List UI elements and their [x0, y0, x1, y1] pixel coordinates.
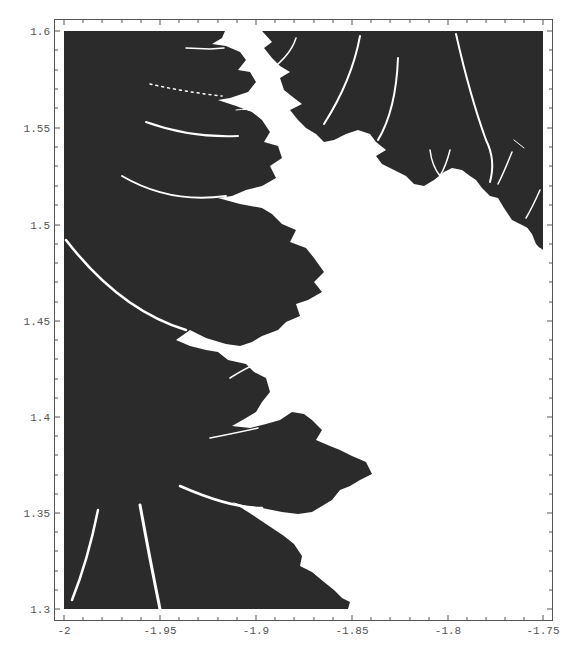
y-axis-labels: 1.6 1.55 1.5 1.45 1.4 1.35 1.3 [24, 26, 51, 616]
y-tick-label: 1.35 [24, 508, 50, 520]
x-tick-label: -1.75 [526, 625, 559, 637]
y-tick-label: 1.55 [24, 123, 50, 135]
y-tick-label: 1.6 [30, 26, 50, 38]
top-ticks [64, 20, 543, 25]
x-tick-label: -1.85 [335, 625, 368, 637]
y-tick-label: 1.5 [30, 220, 50, 232]
y-tick-label: 1.4 [30, 412, 50, 424]
x-axis-labels: -2 -1.95 -1.9 -1.85 -1.8 -1.75 [57, 625, 559, 637]
fractal-plot: -2 -1.95 -1.9 -1.85 -1.8 -1.75 1.6 1.55 … [0, 0, 575, 657]
x-tick-label: -1.9 [243, 625, 269, 637]
y-axis-ticks [55, 31, 60, 609]
x-tick-label: -1.8 [435, 625, 461, 637]
x-tick-label: -2 [57, 625, 70, 637]
y-tick-label: 1.3 [30, 604, 50, 616]
x-axis-ticks [64, 615, 543, 620]
fractal-image [64, 31, 543, 609]
right-ticks [547, 31, 552, 609]
x-tick-label: -1.95 [143, 625, 176, 637]
y-tick-label: 1.45 [24, 316, 50, 328]
